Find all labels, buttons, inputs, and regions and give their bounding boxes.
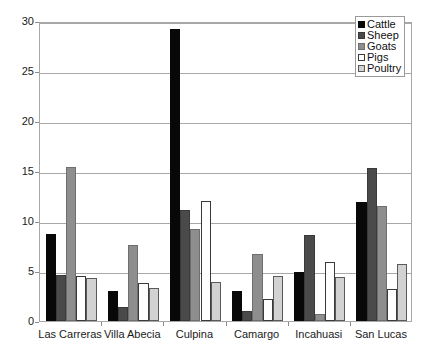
bar-poultry-camargo [273,276,283,321]
legend-label: Poultry [367,63,401,74]
bar-poultry-culpina [211,282,221,321]
x-axis-tick-mark [226,322,227,326]
bar-pigs-culpina [201,201,211,321]
y-axis-tick-label: 10 [0,216,34,227]
legend-item-poultry[interactable]: Poultry [358,63,401,74]
x-axis-tick-mark [163,322,164,326]
y-axis-tick-label: 0 [0,316,34,327]
x-axis-tick-mark [350,322,351,326]
legend-swatch-cattle-icon [358,21,365,28]
bar-sheep-camargo [242,311,252,321]
bar-group [40,23,102,321]
y-axis-tick-label: 30 [0,16,34,27]
bar-pigs-camargo [263,299,273,321]
bar-group [227,23,289,321]
bar-group [164,23,226,321]
y-axis-tick-label: 5 [0,266,34,277]
x-axis-label-san-lucas: San Lucas [321,328,426,341]
bar-goats-villa-abecia [128,245,138,321]
bar-cattle-las-carreras [46,234,56,321]
bar-group [289,23,351,321]
bar-cattle-camargo [232,291,242,321]
bar-cattle-san-lucas [356,202,366,321]
chart-legend: CattleSheepGoatsPigsPoultry [355,16,405,77]
bar-sheep-incahuasi [304,235,314,321]
bar-sheep-villa-abecia [118,307,128,321]
bar-cattle-culpina [170,29,180,321]
bar-cattle-villa-abecia [108,291,118,321]
bar-sheep-san-lucas [367,168,377,321]
bar-goats-incahuasi [315,314,325,321]
bar-poultry-villa-abecia [149,288,159,321]
y-axis-tick-label: 15 [0,166,34,177]
x-axis-tick-mark [288,322,289,326]
bar-goats-san-lucas [377,206,387,321]
bar-goats-las-carreras [66,167,76,321]
bar-pigs-las-carreras [76,276,86,321]
legend-swatch-pigs-icon [358,54,365,61]
y-axis-tick-mark [35,322,39,323]
legend-swatch-poultry-icon [358,65,365,72]
x-axis-tick-mark [101,322,102,326]
y-axis-tick-label: 25 [0,66,34,77]
bar-pigs-incahuasi [325,262,335,321]
bar-group [102,23,164,321]
bar-poultry-incahuasi [335,277,345,321]
bar-pigs-san-lucas [387,289,397,321]
bar-chart: 051015202530 Las CarrerasVilla AbeciaCul… [0,0,426,353]
bar-cattle-incahuasi [294,272,304,321]
y-axis-tick-label: 20 [0,116,34,127]
legend-swatch-goats-icon [358,43,365,50]
bar-poultry-san-lucas [397,264,407,321]
bar-sheep-las-carreras [56,275,66,321]
bar-poultry-las-carreras [86,278,96,321]
legend-swatch-sheep-icon [358,32,365,39]
bar-goats-camargo [252,254,262,321]
bar-sheep-culpina [180,210,190,321]
bar-goats-culpina [190,229,200,321]
bar-pigs-villa-abecia [138,283,148,321]
